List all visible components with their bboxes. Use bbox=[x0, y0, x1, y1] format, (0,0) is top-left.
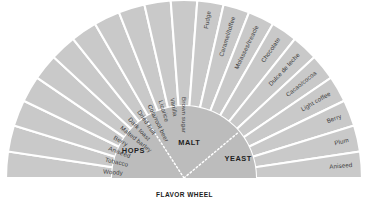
flavor-wheel-figure: WoodyTobaccoAniseedBerryMalted barleyDar… bbox=[0, 0, 369, 206]
hub-group-label[interactable]: HOPS bbox=[122, 146, 145, 155]
flavor-segment-label: Brown sugar bbox=[181, 97, 188, 133]
flavor-wheel-chart: WoodyTobaccoAniseedBerryMalted barleyDar… bbox=[0, 0, 369, 206]
hub-group-label[interactable]: MALT bbox=[178, 138, 200, 147]
figure-caption: FLAVOR WHEEL bbox=[26, 190, 343, 199]
hub-group-label[interactable]: YEAST bbox=[224, 154, 251, 163]
